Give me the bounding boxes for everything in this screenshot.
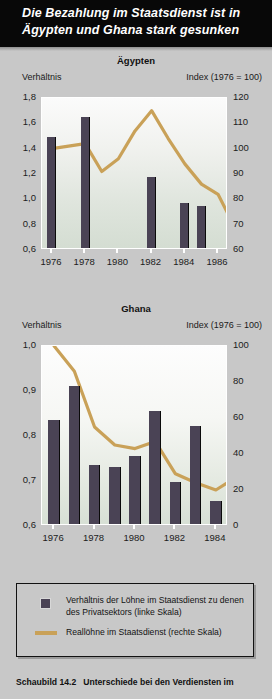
x-tick: 1986 bbox=[197, 256, 237, 267]
caption-number: Schaubild 14.2 bbox=[16, 677, 76, 687]
bar bbox=[109, 467, 121, 525]
x-tick: 1978 bbox=[74, 532, 114, 543]
bar bbox=[210, 501, 222, 525]
y-tick-left: 0,8 bbox=[6, 218, 36, 229]
legend-label-line: Reallöhne im Staatsdienst (rechte Skala) bbox=[66, 627, 246, 639]
bar bbox=[149, 411, 161, 525]
legend-label-bar: Verhältnis der Löhne im Staatsdienst zu … bbox=[66, 595, 246, 618]
x-tickmark bbox=[150, 248, 152, 253]
legend-swatch-line bbox=[35, 631, 57, 635]
y-tick-left: 1,8 bbox=[6, 91, 36, 102]
x-tickmark bbox=[214, 524, 216, 529]
y-tick-left: 1,2 bbox=[6, 167, 36, 178]
bar bbox=[180, 203, 189, 249]
bar bbox=[190, 426, 202, 525]
x-tickmark bbox=[52, 524, 54, 529]
bar bbox=[147, 177, 156, 249]
title-banner: Die Bezahlung im Staatsdienst ist in Ägy… bbox=[0, 0, 272, 47]
y-tick-right: 80 bbox=[233, 192, 265, 203]
bar bbox=[81, 117, 90, 249]
y-tick-right: 90 bbox=[233, 167, 265, 178]
y-tick-left: 0,7 bbox=[6, 474, 36, 485]
figure-title: Die Bezahlung im Staatsdienst ist in Ägy… bbox=[22, 5, 260, 39]
y-tick-left: 1,6 bbox=[6, 116, 36, 127]
y-axis-caption-left-egypt: Verhältnis bbox=[22, 72, 62, 82]
y-axis-caption-left-ghana: Verhältnis bbox=[22, 320, 62, 330]
x-tickmark bbox=[173, 524, 175, 529]
y-tick-right: 60 bbox=[233, 243, 265, 254]
figure-page: Die Bezahlung im Staatsdienst ist in Ägy… bbox=[0, 0, 272, 699]
y-tick-right: 70 bbox=[233, 218, 265, 229]
y-tick-right: 80 bbox=[233, 375, 265, 386]
banner-shadow bbox=[0, 47, 272, 51]
x-tick: 1984 bbox=[195, 532, 235, 543]
x-tick: 1980 bbox=[114, 532, 154, 543]
caption-text: Unterschiede bei den Verdiensten im bbox=[83, 677, 233, 687]
y-tick-left: 0,6 bbox=[6, 519, 36, 530]
y-tick-left: 1,4 bbox=[6, 142, 36, 153]
y-tick-left: 0,6 bbox=[6, 243, 36, 254]
bar bbox=[89, 465, 101, 525]
plot-area-egypt bbox=[41, 97, 227, 249]
y-axis-caption-right-ghana: Index (1976 = 100) bbox=[186, 320, 262, 330]
y-tick-right: 60 bbox=[233, 411, 265, 422]
bar bbox=[47, 137, 56, 249]
y-tick-left: 0,9 bbox=[6, 384, 36, 395]
y-tick-right: 20 bbox=[233, 483, 265, 494]
chart-title-ghana: Ghana bbox=[0, 303, 272, 314]
y-tick-right: 40 bbox=[233, 447, 265, 458]
x-tickmark bbox=[116, 248, 118, 253]
legend: Verhältnis der Löhne im Staatsdienst zu … bbox=[16, 583, 254, 657]
legend-swatch-bar bbox=[40, 598, 51, 609]
x-tickmark bbox=[183, 248, 185, 253]
y-tick-right: 110 bbox=[233, 116, 265, 127]
x-tick: 1982 bbox=[154, 532, 194, 543]
bar bbox=[170, 482, 182, 525]
x-tickmark bbox=[83, 248, 85, 253]
bar bbox=[48, 420, 60, 525]
y-axis-caption-right-egypt: Index (1976 = 100) bbox=[186, 72, 262, 82]
x-tickmark bbox=[216, 248, 218, 253]
y-tick-left: 0,8 bbox=[6, 429, 36, 440]
x-tick: 1976 bbox=[33, 532, 73, 543]
y-tick-right: 100 bbox=[233, 142, 265, 153]
bar bbox=[129, 456, 141, 525]
y-tick-right: 100 bbox=[233, 339, 265, 350]
x-tickmark bbox=[133, 524, 135, 529]
y-tick-right: 0 bbox=[233, 519, 265, 530]
plot-area-ghana bbox=[41, 345, 227, 525]
bar bbox=[197, 206, 206, 249]
chart-title-egypt: Ägypten bbox=[0, 55, 272, 66]
x-tickmark bbox=[93, 524, 95, 529]
caption: Schaubild 14.2Unterschiede bei den Verdi… bbox=[16, 676, 266, 688]
y-tick-left: 1,0 bbox=[6, 339, 36, 350]
y-tick-right: 120 bbox=[233, 91, 265, 102]
x-tickmark bbox=[50, 248, 52, 253]
y-tick-left: 1,0 bbox=[6, 192, 36, 203]
bar bbox=[69, 386, 81, 525]
